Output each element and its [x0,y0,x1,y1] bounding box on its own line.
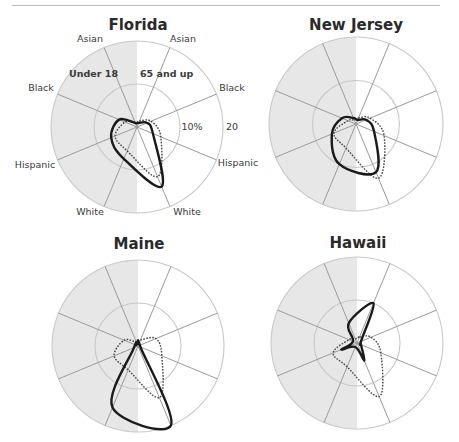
label-65-and-up: 65 and up [140,68,194,79]
chart-new-jersey: New Jersey [269,16,443,211]
label-black-65up: Black [219,82,245,93]
label-white-under18: White [76,206,104,217]
label-hispanic-65up: Hispanic [218,157,258,168]
label-white-65up: White [173,206,201,217]
chart-title: Florida [108,16,167,34]
chart-florida: Florida Asian Asian Black Black Hispanic… [15,16,258,217]
chart-grid [271,257,443,429]
chart-grid [269,37,443,211]
ring-label-20: 20 [226,121,238,132]
chart-title: New Jersey [309,16,403,34]
chart-title: Maine [113,235,164,253]
label-asian-65up: Asian [170,33,196,44]
chart-grid [52,260,224,432]
chart-hawaii: Hawaii [271,234,443,429]
chart-title: Hawaii [330,234,387,252]
label-under-18: Under 18 [69,68,118,79]
chart-canvas: Florida Asian Asian Black Black Hispanic… [0,0,459,442]
ring-label-10: 10% [181,121,202,132]
chart-maine: Maine [52,235,224,432]
label-hispanic-under18: Hispanic [15,159,55,170]
label-black-under18: Black [28,82,54,93]
label-asian-under18: Asian [77,33,103,44]
